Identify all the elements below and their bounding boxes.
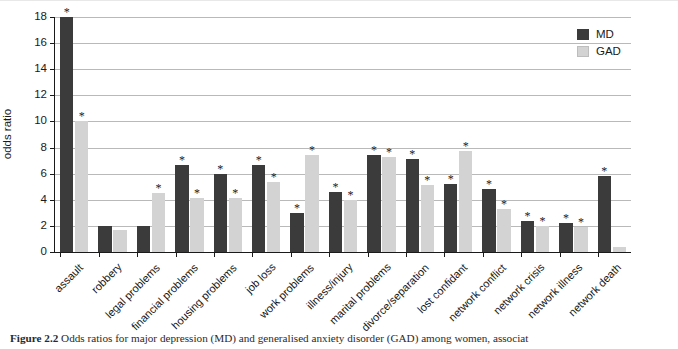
legend-swatch-gad-icon <box>577 46 589 57</box>
significance-star: * <box>386 148 392 157</box>
y-tick-mark <box>50 17 55 18</box>
figure-2-2: odds ratio 024681012141618**************… <box>0 0 678 349</box>
significance-star: * <box>486 180 492 189</box>
significance-star: * <box>424 176 430 185</box>
bar-md: * <box>521 221 535 252</box>
significance-star: * <box>79 112 85 121</box>
bar-gad: * <box>459 151 473 252</box>
bar-gad: * <box>152 193 166 252</box>
bar-md: * <box>482 189 496 252</box>
x-axis-label: job loss <box>243 261 278 296</box>
y-tick-mark <box>50 121 55 122</box>
bar-gad <box>613 247 627 252</box>
gridline <box>55 121 631 122</box>
significance-star: * <box>294 204 300 213</box>
figure-caption: Figure 2.2 Odds ratios for major depress… <box>10 332 670 347</box>
x-tick-mark <box>99 252 100 257</box>
gridline <box>55 17 631 18</box>
y-tick-label: 8 <box>41 142 47 154</box>
x-axis-label: divorce/separation <box>359 261 431 333</box>
bar-md: * <box>406 159 420 252</box>
gridline <box>55 95 631 96</box>
significance-star: * <box>601 167 607 176</box>
y-tick-mark <box>50 252 55 253</box>
y-tick-mark <box>50 200 55 201</box>
bar-gad: * <box>305 155 319 252</box>
x-tick-mark <box>176 252 177 257</box>
x-tick-mark <box>214 252 215 257</box>
significance-star: * <box>217 165 223 174</box>
bar-gad: * <box>536 226 550 252</box>
x-tick-mark <box>444 252 445 257</box>
bar-gad: * <box>574 227 588 252</box>
bar-gad: * <box>229 198 243 252</box>
x-tick-mark <box>406 252 407 257</box>
gridline <box>55 43 631 44</box>
legend-label-gad: GAD <box>596 46 621 58</box>
x-tick-mark <box>560 252 561 257</box>
y-tick-mark <box>50 226 55 227</box>
y-tick-label: 18 <box>34 11 47 23</box>
bar-md: * <box>367 155 381 252</box>
x-tick-mark <box>291 252 292 257</box>
y-tick-label: 12 <box>34 90 47 102</box>
x-axis-label: assault <box>52 261 85 294</box>
legend-swatch-md-icon <box>577 29 589 40</box>
legend-item-gad: GAD <box>577 44 647 59</box>
x-tick-mark <box>137 252 138 257</box>
y-tick-mark <box>50 95 55 96</box>
significance-star: * <box>448 175 454 184</box>
significance-star: * <box>563 214 569 223</box>
bar-gad: * <box>267 182 281 253</box>
significance-star: * <box>64 8 70 17</box>
caption-figure-number: Figure 2.2 <box>10 332 58 344</box>
y-tick-label: 2 <box>41 220 47 232</box>
significance-star: * <box>540 217 546 226</box>
bar-md <box>98 226 112 252</box>
y-tick-label: 0 <box>41 246 47 258</box>
y-axis-title: odds ratio <box>1 109 13 160</box>
bar-gad: * <box>421 185 435 252</box>
bar-md: * <box>214 174 228 252</box>
bar-md: * <box>175 165 189 252</box>
legend: MD GAD <box>577 27 647 61</box>
gridline <box>55 69 631 70</box>
bar-chart: odds ratio 024681012141618**************… <box>0 0 678 312</box>
bar-gad: * <box>382 157 396 252</box>
x-tick-mark <box>598 252 599 257</box>
legend-item-md: MD <box>577 27 647 42</box>
x-tick-mark <box>60 252 61 257</box>
y-tick-label: 14 <box>34 63 47 75</box>
bar-md: * <box>290 213 304 252</box>
significance-star: * <box>333 183 339 192</box>
significance-star: * <box>194 189 200 198</box>
x-axis-label: robbery <box>89 261 124 296</box>
x-tick-mark <box>368 252 369 257</box>
y-tick-label: 10 <box>34 116 47 128</box>
caption-body: Odds ratios for major depression (MD) an… <box>58 332 528 344</box>
bar-gad: * <box>497 209 511 252</box>
legend-label-md: MD <box>596 29 614 41</box>
y-tick-mark <box>50 174 55 175</box>
bar-gad: * <box>344 200 358 252</box>
bar-md: * <box>329 192 343 252</box>
significance-star: * <box>179 156 185 165</box>
x-tick-mark <box>252 252 253 257</box>
significance-star: * <box>409 150 415 159</box>
significance-star: * <box>232 189 238 198</box>
significance-star: * <box>156 184 162 193</box>
bar-md: * <box>252 165 266 252</box>
x-tick-mark <box>521 252 522 257</box>
y-tick-label: 16 <box>34 37 47 49</box>
significance-star: * <box>256 156 262 165</box>
gridline <box>55 148 631 149</box>
bar-md: * <box>559 223 573 252</box>
x-axis-labels: assaultrobberylegal problemsfinancial pr… <box>54 259 630 319</box>
y-tick-label: 6 <box>41 168 47 180</box>
bar-md: * <box>598 176 612 252</box>
bar-gad: * <box>190 198 204 252</box>
plot-area: 024681012141618*************************… <box>54 17 631 253</box>
y-tick-mark <box>50 43 55 44</box>
y-tick-mark <box>50 148 55 149</box>
y-tick-label: 4 <box>41 194 47 206</box>
